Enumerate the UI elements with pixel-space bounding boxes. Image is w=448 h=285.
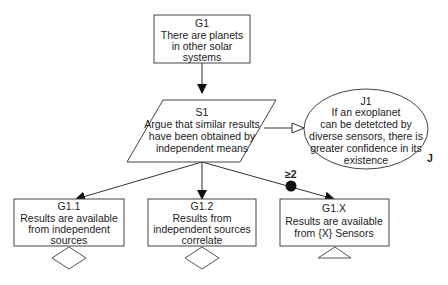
justification-marker: J — [427, 152, 433, 164]
goal-g1-1[interactable]: G1.1 Results are available from independ… — [14, 199, 124, 269]
gsn-diagram: ≥2 G1 There are planets in other solar s… — [0, 0, 448, 285]
justification-j1-line: existence — [344, 154, 389, 166]
edge-s1-g11 — [76, 162, 202, 199]
goal-g1-x-id: G1.X — [322, 202, 346, 214]
undeveloped-diamond-icon — [52, 247, 86, 269]
strategy-s1-line: independent means — [156, 142, 248, 154]
strategy-s1[interactable]: S1 Argue that similar results have been … — [127, 100, 276, 162]
goal-g1-x-line: Results are available — [285, 215, 383, 227]
goal-g1-x[interactable]: G1.X Results are available from {X} Sens… — [280, 199, 389, 258]
goal-g1[interactable]: G1 There are planets in other solar syst… — [154, 15, 250, 63]
justification-j1[interactable]: J1 If an exoplanet can be detetcted by d… — [304, 89, 433, 169]
goal-g1-line: systems — [183, 51, 222, 63]
goal-g1-2-id: G1.2 — [191, 200, 214, 212]
goal-g1-x-line: from {X} Sensors — [294, 227, 373, 239]
goal-g1-1-line: sources — [51, 234, 88, 246]
goal-g1-id: G1 — [195, 17, 209, 29]
multiplicity-marker: ≥2 — [285, 168, 297, 192]
goal-g1-1-id: G1.1 — [58, 200, 81, 212]
strategy-s1-id: S1 — [196, 106, 209, 118]
goal-g1-2[interactable]: G1.2 Results from independent sources co… — [148, 199, 256, 269]
justification-j1-line: can be detetcted by — [320, 118, 412, 130]
justification-j1-line: diverse sensors, there is — [309, 130, 423, 142]
strategy-s1-line: Argue that similar results — [144, 118, 260, 130]
multiplicity-label: ≥2 — [285, 168, 297, 180]
goal-g1-2-line: correlate — [182, 234, 223, 246]
undeveloped-diamond-icon — [185, 247, 219, 269]
justification-j1-line: greater confidence in its — [310, 142, 421, 154]
edge-s1-g1x — [202, 162, 334, 199]
uninstantiated-triangle-icon — [318, 247, 351, 258]
justification-j1-line: If an exoplanet — [332, 106, 401, 118]
strategy-s1-line: have been obtained by — [149, 130, 256, 142]
